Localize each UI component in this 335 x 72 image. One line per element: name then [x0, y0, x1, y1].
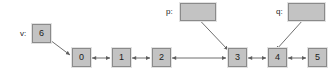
variable-label-v: v:: [20, 30, 26, 38]
variable-box-v[interactable]: 6: [32, 24, 51, 43]
list-node-label: 5: [315, 53, 320, 62]
list-node-1[interactable]: 1: [112, 48, 131, 67]
list-node-label: 1: [119, 53, 124, 62]
list-node-3[interactable]: 3: [228, 48, 247, 67]
list-node-5[interactable]: 5: [308, 48, 327, 67]
list-node-4[interactable]: 4: [268, 48, 287, 67]
variable-label-p: p:: [166, 8, 173, 16]
list-node-label: 2: [159, 53, 164, 62]
diagram-canvas: v: 6 p: q: 0 1 2 3 4 5: [0, 0, 335, 72]
variable-box-p[interactable]: [180, 3, 216, 21]
edge-v-to-node0: [50, 40, 70, 55]
list-node-label: 4: [275, 53, 280, 62]
variable-box-q[interactable]: [288, 3, 325, 21]
list-node-0[interactable]: 0: [72, 48, 91, 67]
list-node-label: 0: [79, 53, 84, 62]
variable-value-v: 6: [39, 29, 44, 38]
list-node-label: 3: [235, 53, 240, 62]
list-node-2[interactable]: 2: [152, 48, 171, 67]
variable-label-q: q:: [276, 8, 283, 16]
